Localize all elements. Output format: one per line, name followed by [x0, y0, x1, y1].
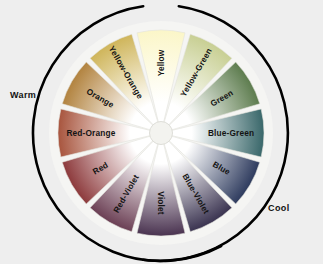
- cool-label: Cool: [268, 203, 290, 213]
- color-wheel-svg: YellowYellow-GreenGreenBlue-GreenBlueBlu…: [0, 0, 323, 264]
- wedge-label-yellow: Yellow: [156, 49, 166, 76]
- warm-label: Warm: [10, 90, 36, 100]
- wedge-label-red-orange: Red-Orange: [66, 128, 115, 138]
- wedge-label-blue-green: Blue-Green: [208, 128, 254, 138]
- color-wheel-figure: YellowYellow-GreenGreenBlue-GreenBlueBlu…: [0, 0, 323, 264]
- center-hub: [150, 122, 173, 145]
- wedge-label-violet: Violet: [156, 191, 166, 214]
